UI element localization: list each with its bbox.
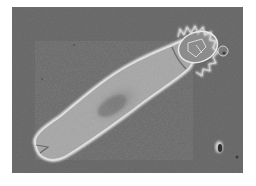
micrograph-frame [12, 7, 243, 173]
corona-spot [222, 51, 225, 54]
corona-bulb [218, 46, 228, 56]
speck [41, 78, 43, 80]
speck [73, 44, 75, 46]
micrograph [12, 7, 243, 173]
speck [236, 156, 239, 159]
debris-particle [215, 141, 223, 153]
debris-core [218, 144, 222, 152]
